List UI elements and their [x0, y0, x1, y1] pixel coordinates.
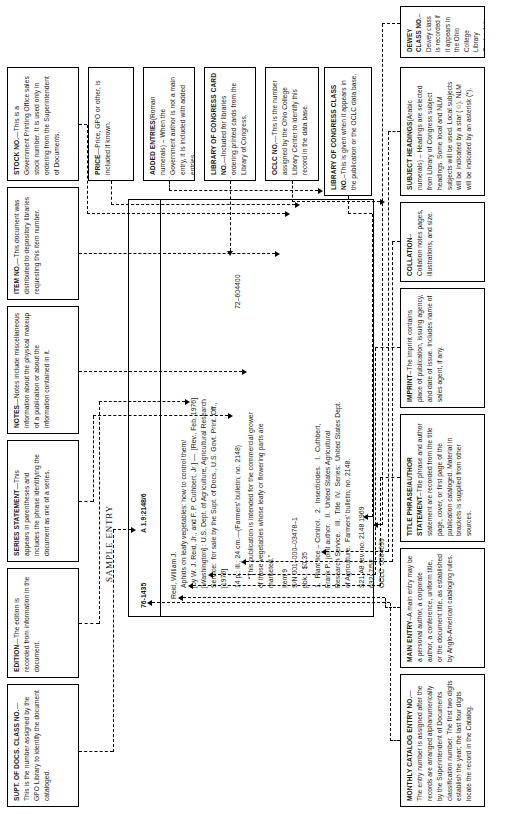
annotation-title: SUBJECT HEADINGS: [406, 122, 413, 190]
annotation-body: —Included for libraries ordering printed…: [220, 83, 247, 175]
card-note-line-3: marketed.”: [266, 555, 276, 588]
card-imprint-line-1: [Washington] : U.S. Dept. of Agriculture…: [199, 399, 209, 588]
leader-price-h: [111, 181, 112, 205]
arrowhead-price: [295, 202, 300, 208]
annotation-stock-no: STOCK NO.—This is a Government Printing …: [7, 67, 79, 181]
leader-edition-v2: [99, 401, 185, 402]
annotation-title: MAIN ENTRY: [406, 621, 413, 662]
annotation-monthly-catalog-entry-no: MONTHLY CATALOG ENTRY NO.—The entry numb…: [400, 674, 485, 807]
annotation-item-no: ITEM NO.—This document was distributed t…: [7, 187, 79, 300]
arrowhead-collation: [241, 559, 246, 565]
arrowhead-lc-class-no: [363, 514, 368, 520]
card-subject-line-4: of Agriculture. Farmers' bulletin; no. 2…: [343, 459, 353, 588]
annotation-body: –Dewey class is recorded if it appears i…: [415, 14, 485, 52]
leader-lc-class-no-h: [348, 196, 349, 214]
leader-edition-h: [99, 402, 100, 624]
card-imprint-line-2: Service: for sale by the Supt. of Docs.,…: [209, 402, 219, 588]
leader-dewey-class-no-h: [382, 24, 383, 525]
arrowhead-monthly-catalog-entry-no: [147, 600, 152, 606]
card-subject-line-1: 1. Plant lice – Control. 2. Insecticides…: [313, 424, 323, 588]
annotation-price: PRICE—Price, GPO or other, is included i…: [88, 67, 134, 181]
leader-stock-no-v2: [87, 213, 285, 214]
annotation-title: SERIES STATEMENT: [13, 490, 20, 556]
annotation-body: –This is given when it appears in the pu…: [340, 73, 357, 190]
annotation-title: OCLC NO.: [271, 142, 278, 175]
arrowhead-subject-headings: [321, 549, 326, 555]
annotation-library-of-congress-class-no: LIBRARY OF CONGRESS CLASS NO.–This is gi…: [324, 67, 372, 196]
leader-dewey-class-no: [382, 23, 400, 24]
leader-title-phrase: [380, 477, 400, 478]
annotation-title-phrase-author-statement: TITLE PHRASE/AUTHOR STATEMENT–Title phra…: [400, 414, 485, 542]
annotation-main-entry: MAIN ENTRY–A main entry may be a persona…: [400, 548, 485, 668]
leader-oclc-no-v: [292, 201, 380, 202]
leader-subject-headings-h: [388, 132, 389, 552]
leader-main-entry-h: [385, 598, 386, 608]
annotation-dewey-class-no-visible: DEWEY CLASS NO.–Dewey class is recorded …: [400, 6, 485, 58]
card-supt-docs-class-no: A 1.9:2148/6: [139, 493, 149, 533]
leader-dewey-class-no-v2: [378, 524, 382, 525]
card-main-entry: Reid, William J.: [169, 552, 179, 599]
annotation-title: MONTHLY CATALOG ENTRY NO.: [406, 697, 413, 801]
annotation-edition: EDITION—The edition is recorded from inf…: [7, 568, 79, 678]
annotation-series-statement: SERIES STATEMENT—This appears in parenth…: [7, 440, 79, 562]
leader-collation-h: [392, 242, 393, 562]
rotated-diagram-canvas: SUPT. OF DOCS. CLASS NO.—This is the num…: [0, 0, 513, 814]
arrowhead-item-no: [275, 251, 280, 257]
card-author-statement: [by W. J. Reid, Jr., and F. P. Cuthbert,…: [189, 398, 199, 588]
card-oclc-no: OCLC 0084699: [377, 538, 387, 588]
leader-price-v: [111, 204, 295, 205]
arrowhead-notes: [242, 369, 247, 375]
card-subject-line-2: Frank P., joint author. II. United State…: [323, 431, 333, 588]
leader-monthly-catalog-entry-no: [390, 740, 400, 741]
leader-collation: [392, 241, 400, 242]
annotation-body: –Title phrase and author statement are r…: [416, 423, 472, 536]
arrowhead-lc-card-no: [227, 251, 233, 256]
annotation-collation: COLLATION–Collation notes pages, illustr…: [400, 202, 485, 282]
leader-collation-v2: [246, 561, 392, 562]
arrowhead-imprint: [208, 572, 213, 578]
annotation-title: DEWEY CLASS NO.: [406, 17, 422, 52]
leader-edition: [79, 623, 99, 624]
leader-supt-of-docs: [79, 751, 113, 752]
annotation-title: ITEM NO.: [13, 264, 20, 294]
annotation-title: COLLATION: [406, 237, 413, 276]
leader-lc-class-no-h2: [372, 214, 373, 517]
arrowhead-main-entry: [178, 595, 183, 601]
leader-subject-headings-v2: [326, 551, 388, 552]
leader-added-entries-v: [169, 190, 318, 191]
leader-title-phrase-v2: [193, 585, 380, 586]
leader-stock-no-h: [87, 125, 88, 214]
arrowhead-edition: [185, 399, 190, 405]
annotation-imprint: IMPRINT–The imprint contains place of pu…: [400, 288, 485, 408]
arrowhead-added-entries: [318, 188, 323, 194]
annotation-library-of-congress-card-no: LIBRARY OF CONGRESS CARD NO.—Included fo…: [204, 67, 256, 181]
annotation-supt-of-docs-class-no: SUPT. OF DOCS. CLASS NO.—This is the num…: [7, 684, 79, 807]
diagram-stage: SUPT. OF DOCS. CLASS NO.—This is the num…: [0, 0, 513, 814]
annotation-body: —The entry number is assigned after the …: [406, 680, 472, 801]
leader-main-entry-v2: [183, 597, 385, 598]
annotation-title: STOCK NO.: [13, 138, 20, 175]
leader-series-statement-v2: [93, 415, 228, 416]
arrowhead-dewey-class-no: [373, 522, 378, 528]
annotation-title: NOTES: [13, 405, 20, 428]
card-note-line-1: “This publication is intended for the co…: [246, 412, 256, 579]
annotation-added-entries: ADDED ENTRIES(Roman numerals) – When the…: [143, 67, 195, 181]
card-price: pbk.: $0.35: [300, 552, 310, 588]
arrowhead-series-statement: [228, 413, 233, 419]
leader-item-no: [79, 253, 275, 254]
leader-series-statement: [79, 501, 93, 502]
annotation-title: EDITION: [13, 645, 20, 672]
leader-main-entry: [385, 607, 400, 608]
annotation-oclc-no: OCLC NO.—This is the number assigned by …: [265, 67, 319, 181]
annotation-title: IMPRINT: [406, 374, 413, 402]
card-divider: [160, 199, 161, 617]
leader-monthly-catalog-entry-no-h: [390, 603, 391, 741]
card-title-statement: Aphids on leafy vegetables: how to contr…: [179, 440, 189, 588]
leader-supt-of-docs-h: [113, 530, 114, 752]
annotation-subject-headings: SUBJECT HEADINGS(Arabic numerals) – Head…: [400, 67, 485, 196]
card-stock-no: S/N 001–000–03478–1: [290, 517, 300, 588]
card-collation: 14 p.: ill.; 24 cm.—(Farmers' bulletin; …: [233, 445, 243, 588]
leader-lc-class-no-v2: [368, 516, 372, 517]
card-lc-card-no: 72–604400: [233, 275, 243, 310]
arrowhead-stock-no: [285, 211, 290, 217]
